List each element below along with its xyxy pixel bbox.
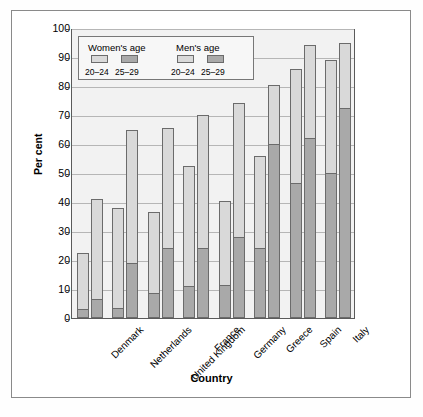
y-axis-title: Per cent xyxy=(32,134,44,175)
y-axis-tick-mark xyxy=(66,319,70,320)
legend-swatch-men-25-29 xyxy=(207,55,224,63)
bar-segment-25-29 xyxy=(325,173,337,318)
legend-swatch-women-20-24 xyxy=(91,55,108,63)
figure: Per cent 0102030405060708090100 Women's … xyxy=(0,0,423,417)
bar-segment-25-29 xyxy=(183,286,195,318)
bar-segment-25-29 xyxy=(162,248,174,318)
bar-women-netherlands xyxy=(112,208,124,318)
bar-segment-25-29 xyxy=(77,309,89,318)
bar-segment-25-29 xyxy=(91,299,103,318)
legend-title-women: Women's age xyxy=(88,42,146,53)
y-axis: Per cent 0102030405060708090100 xyxy=(36,0,70,417)
y-axis-tick-mark xyxy=(66,290,70,291)
bar-women-denmark xyxy=(77,253,89,318)
y-axis-tick-mark xyxy=(66,29,70,30)
bar-segment-25-29 xyxy=(197,248,209,318)
bar-men-france xyxy=(197,115,209,318)
bar-segment-25-29 xyxy=(112,308,124,318)
legend-swatch-women-25-29 xyxy=(121,55,138,63)
bar-segment-25-29 xyxy=(304,138,316,318)
y-axis-tick-mark xyxy=(66,261,70,262)
bar-segment-25-29 xyxy=(290,183,302,318)
bar-segment-25-29 xyxy=(126,263,138,318)
chart-legend: Women's age 20–24 25–29 Men's age 20–24 … xyxy=(78,36,254,80)
legend-label-women-20-24: 20–24 xyxy=(85,67,109,77)
bar-segment-25-29 xyxy=(219,285,231,318)
bar-segment-25-29 xyxy=(268,144,280,318)
bar-women-italy xyxy=(325,60,337,318)
x-axis-title: Country xyxy=(0,372,423,384)
legend-title-men: Men's age xyxy=(176,42,220,53)
y-axis-tick-mark xyxy=(66,174,70,175)
bar-women-germany xyxy=(219,201,231,318)
y-axis-tick-mark xyxy=(66,58,70,59)
bar-men-germany xyxy=(233,103,245,318)
bar-men-denmark xyxy=(91,199,103,318)
bar-men-netherlands xyxy=(126,130,138,319)
bar-women-spain xyxy=(290,69,302,318)
legend-label-women-25-29: 25–29 xyxy=(115,67,139,77)
legend-label-men-25-29: 25–29 xyxy=(201,67,225,77)
bar-women-greece xyxy=(254,156,266,318)
bar-women-united-kingdom xyxy=(148,212,160,318)
bar-women-france xyxy=(183,166,195,318)
y-axis-tick-mark xyxy=(66,232,70,233)
bar-segment-25-29 xyxy=(339,108,351,318)
legend-label-men-20-24: 20–24 xyxy=(171,67,195,77)
bar-segment-25-29 xyxy=(148,293,160,318)
legend-swatch-men-20-24 xyxy=(177,55,194,63)
bar-segment-25-29 xyxy=(254,248,266,318)
y-axis-tick-mark xyxy=(66,203,70,204)
bar-men-united-kingdom xyxy=(162,128,174,318)
y-axis-tick-mark xyxy=(66,145,70,146)
bar-men-italy xyxy=(339,43,351,319)
bar-men-greece xyxy=(268,85,280,318)
bar-segment-25-29 xyxy=(233,237,245,318)
gridline xyxy=(72,29,354,30)
y-axis-tick-mark xyxy=(66,87,70,88)
bar-men-spain xyxy=(304,45,316,318)
y-axis-tick-mark xyxy=(66,116,70,117)
